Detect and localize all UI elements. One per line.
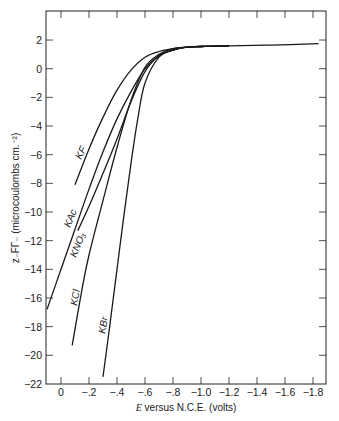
y-tick-label: −6 [30,149,42,161]
y-tick-label: 2 [36,34,42,46]
y-tick-label: −18 [24,321,42,333]
y-tick-label: −2 [30,91,42,103]
y-tick-label: −16 [24,292,42,304]
y-tick-label: −8 [30,177,42,189]
y-tick-label: −20 [24,349,42,361]
x-axis-label: E versus N.C.E. (volts) [135,402,237,413]
x-tick-label: −.6 [138,386,153,398]
x-tick-label: −.2 [82,386,97,398]
y-tick-label: −14 [24,263,42,275]
curve-label-kno3: KNO₃ [68,231,88,259]
y-tick-label: −10 [24,206,42,218]
x-tick-label: 0 [58,386,64,398]
curve-kno3 [78,46,229,231]
y-tick-label: −12 [24,235,42,247]
x-tick-label: −1.2 [219,386,240,398]
chart: 0−.2−.4−.6−.8−1.0−1.2−1.4−1.6−1.8 20−2−4… [0,0,339,421]
y-axis-label: z₋FΓ₋ (microcoulombs cm.⁻²) [10,133,21,264]
x-tick-label: −.4 [110,386,125,398]
plot-frame [46,11,326,384]
x-tick-label: −1.6 [275,386,296,398]
y-tick-label: −22 [24,378,42,390]
y-tick-label: 0 [36,63,42,75]
x-tick-label: −1.4 [247,386,268,398]
curve-label-kf: KF [73,144,89,161]
curve-kcl [72,46,229,346]
x-tick-label: −.8 [166,386,181,398]
x-tick-label: −1.8 [303,386,324,398]
x-tick-label: −1.0 [191,386,212,398]
curve-label-kbr: KBr [96,315,110,334]
curves [47,44,319,377]
x-axis-ticks: 0−.2−.4−.6−.8−1.0−1.2−1.4−1.6−1.8 [58,11,323,398]
curve-kf [75,44,319,185]
y-tick-label: −4 [30,120,42,132]
curve-kbr [103,46,229,377]
